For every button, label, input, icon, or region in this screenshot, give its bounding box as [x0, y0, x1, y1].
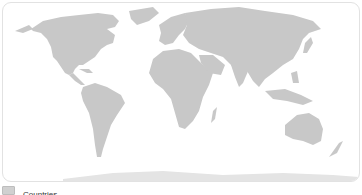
south-america[interactable] [81, 83, 125, 157]
north-america[interactable] [31, 13, 119, 75]
philippines[interactable] [291, 71, 299, 83]
madagascar[interactable] [211, 107, 217, 123]
alaska[interactable] [15, 25, 33, 33]
antarctica[interactable] [63, 171, 359, 181]
greenland[interactable] [129, 7, 159, 25]
central-america[interactable] [69, 73, 85, 85]
india[interactable] [231, 63, 249, 87]
australia[interactable] [285, 113, 323, 145]
world-map[interactable] [2, 2, 360, 182]
caribbean[interactable] [79, 69, 93, 73]
japan[interactable] [303, 37, 313, 53]
legend: Countries [2, 186, 57, 195]
new-zealand[interactable] [329, 141, 343, 157]
world-map-graphic [3, 3, 359, 181]
legend-swatch [2, 186, 15, 195]
southeast-asia[interactable] [265, 89, 313, 105]
legend-label: Countries [23, 190, 57, 195]
